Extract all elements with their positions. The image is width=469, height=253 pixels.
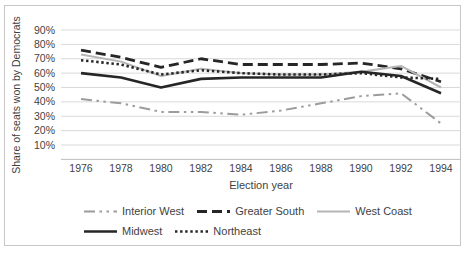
chart-figure: 90%80%70%60%50%40%30%20%10%1976197819801… [0, 0, 469, 253]
legend-line-marker-northeast [175, 228, 208, 235]
y-tick-label: 10% [34, 139, 55, 151]
legend-label: Greater South [235, 205, 304, 217]
legend-line-marker-west-coast [317, 208, 350, 215]
legend-label: West Coast [355, 205, 412, 217]
x-tick-label: 1992 [389, 162, 413, 174]
legend-line-marker-greater-south [197, 208, 230, 215]
legend-item-interior-west: Interior West [84, 205, 184, 217]
x-tick-label: 1988 [309, 162, 333, 174]
legend-line-marker-midwest [84, 228, 117, 235]
legend-item-midwest: Midwest [84, 225, 162, 237]
y-tick-label: 30% [34, 110, 55, 122]
y-tick-label: 40% [34, 95, 55, 107]
legend-label: Interior West [122, 205, 184, 217]
series-line-interior-west [81, 93, 441, 123]
legend-row: MidwestNortheast [84, 225, 412, 237]
y-tick-label: 80% [34, 38, 55, 50]
x-tick-label: 1982 [189, 162, 213, 174]
legend-label: Midwest [122, 225, 162, 237]
legend-item-west-coast: West Coast [317, 205, 412, 217]
gridlines [61, 30, 461, 145]
y-tick-label: 90% [34, 24, 55, 36]
x-tick-labels: 1976197819801982198419861988199019921994 [69, 162, 453, 174]
y-tick-label: 20% [34, 124, 55, 136]
x-tick-label: 1994 [429, 162, 453, 174]
x-axis-title: Election year [229, 179, 293, 191]
chart-legend: Interior WestGreater SouthWest CoastMidw… [84, 205, 412, 237]
y-tick-label: 70% [34, 52, 55, 64]
legend-item-greater-south: Greater South [197, 205, 304, 217]
legend-label: Northeast [213, 225, 261, 237]
x-tick-label: 1984 [229, 162, 253, 174]
x-tick-label: 1976 [69, 162, 93, 174]
x-tick-label: 1980 [149, 162, 173, 174]
x-tick-label: 1986 [269, 162, 293, 174]
x-tick-label: 1978 [109, 162, 133, 174]
legend-row: Interior WestGreater SouthWest Coast [84, 205, 412, 217]
legend-item-northeast: Northeast [175, 225, 261, 237]
x-tick-label: 1990 [349, 162, 373, 174]
y-tick-labels: 90%80%70%60%50%40%30%20%10% [34, 24, 55, 151]
y-axis-title: Share of seats won by Democrats [10, 16, 22, 174]
legend-line-marker-interior-west [84, 208, 117, 215]
series-line-northeast [81, 60, 441, 79]
y-tick-label: 60% [34, 67, 55, 79]
y-tick-label: 50% [34, 81, 55, 93]
